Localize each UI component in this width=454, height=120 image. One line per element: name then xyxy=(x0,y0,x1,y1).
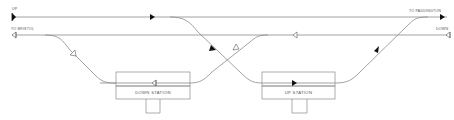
up-station-label: UP STATION xyxy=(262,91,335,95)
filled-arrow-icon xyxy=(150,14,155,20)
hollow-arrow-icon xyxy=(293,32,297,38)
filled-arrow-icon xyxy=(374,46,379,53)
hollow-arrow-icon xyxy=(233,44,239,50)
hollow-arrow-icon xyxy=(446,32,450,38)
down-station-label: DOWN STATION xyxy=(116,91,190,95)
down-station-stem xyxy=(146,99,160,113)
track-diagram xyxy=(0,0,454,120)
filled-arrow-icon xyxy=(292,80,297,86)
filled-arrow-icon xyxy=(12,13,16,21)
down-label: DOWN xyxy=(436,28,448,32)
hollow-arrow-icon xyxy=(12,32,16,38)
crossover-down-station-to-down-main xyxy=(190,35,268,83)
up-station-exit-track xyxy=(335,17,428,83)
down-loop-track xyxy=(45,35,116,83)
up-station-platform xyxy=(262,72,335,86)
to-paddington-label: TO PADDINGTON xyxy=(409,10,441,14)
up-label: UP xyxy=(12,8,17,12)
up-station-stem xyxy=(292,99,307,113)
hollow-arrow-icon xyxy=(152,80,156,86)
filled-arrow-icon xyxy=(440,14,445,20)
to-bristol-label: TO BRISTOL xyxy=(11,28,34,32)
